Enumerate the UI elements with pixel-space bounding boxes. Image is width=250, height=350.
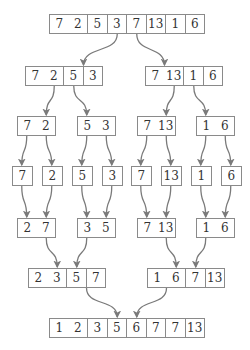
split-arrow: [137, 34, 165, 65]
merge-sort-diagram: 7253713167253713167253713167253713162735…: [0, 0, 250, 350]
split-arrow: [225, 136, 231, 165]
merge-arrow: [82, 186, 87, 217]
split-arrow: [84, 34, 118, 65]
merge-arrow: [201, 186, 206, 217]
split-arrow: [194, 86, 206, 115]
merge-arrow: [77, 238, 87, 267]
split-arrow: [166, 136, 171, 165]
split-arrow: [201, 136, 206, 165]
split-arrow: [141, 136, 147, 165]
split-arrow: [106, 136, 112, 165]
merge-arrow: [22, 186, 27, 217]
merge-arrow: [106, 186, 112, 217]
merge-arrow: [141, 186, 147, 217]
split-arrow: [166, 86, 174, 115]
merge-arrow: [196, 238, 206, 267]
split-arrow: [82, 136, 87, 165]
merge-arrow: [46, 186, 52, 217]
split-arrow: [22, 136, 27, 165]
split-arrow: [74, 86, 87, 115]
merge-arrow: [225, 186, 231, 217]
merge-arrow: [46, 238, 57, 267]
split-arrow: [46, 136, 52, 165]
merge-arrow: [166, 186, 171, 217]
merge-arrow: [87, 288, 118, 317]
split-arrow: [46, 86, 54, 115]
merge-arrow: [137, 288, 167, 317]
merge-arrow: [166, 238, 176, 267]
arrows-layer: [0, 0, 250, 350]
